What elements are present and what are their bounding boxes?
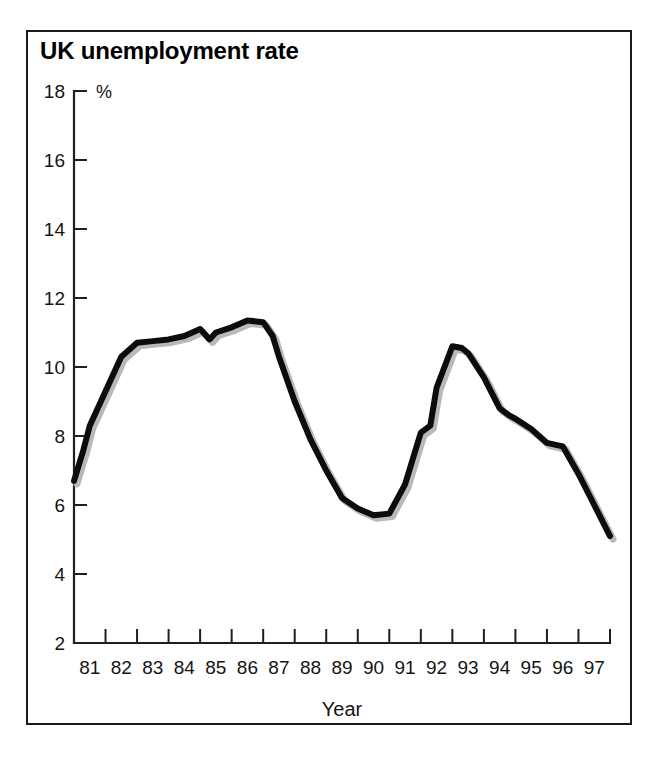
x-axis-tick-label: 92 bbox=[426, 657, 447, 678]
x-axis-tick-label: 85 bbox=[205, 657, 226, 678]
y-axis-tick-label: 14 bbox=[44, 219, 66, 240]
x-axis-tick-marks bbox=[74, 629, 610, 643]
x-axis-tick-label: 97 bbox=[584, 657, 605, 678]
x-axis-tick-label: 91 bbox=[394, 657, 415, 678]
y-axis-tick-label: 6 bbox=[54, 495, 65, 516]
x-axis-tick-label: 95 bbox=[521, 657, 542, 678]
y-axis-tick-label: 10 bbox=[44, 357, 65, 378]
x-axis-tick-label: 90 bbox=[363, 657, 384, 678]
y-axis-tick-label: 16 bbox=[44, 150, 65, 171]
x-axis-tick-label: 86 bbox=[237, 657, 258, 678]
y-axis-tick-label: 8 bbox=[54, 426, 65, 447]
x-axis-tick-label: 87 bbox=[268, 657, 289, 678]
y-axis-unit-label: % bbox=[96, 82, 112, 102]
chart-figure: UK unemployment rate 24681012141618 8182… bbox=[26, 30, 632, 725]
x-axis-tick-label: 84 bbox=[174, 657, 196, 678]
y-axis-tick-label: 12 bbox=[44, 288, 65, 309]
x-axis-tick-label: 93 bbox=[458, 657, 479, 678]
x-axis-tick-label: 88 bbox=[300, 657, 321, 678]
x-axis-tick-label: 89 bbox=[331, 657, 352, 678]
x-axis-tick-label: 82 bbox=[111, 657, 132, 678]
x-axis-tick-label: 94 bbox=[489, 657, 511, 678]
x-axis-title: Year bbox=[322, 698, 363, 720]
series-line-uk-unemployment-rate bbox=[74, 320, 610, 536]
chart-plot-area: 24681012141618 8182838485868788899091929… bbox=[28, 32, 634, 727]
y-axis-tick-label: 4 bbox=[54, 564, 65, 585]
x-axis-tick-labels: 8182838485868788899091929394959697 bbox=[79, 657, 605, 678]
y-axis-tick-label: 2 bbox=[54, 633, 65, 654]
x-axis-tick-label: 96 bbox=[552, 657, 573, 678]
x-axis-tick-label: 83 bbox=[142, 657, 163, 678]
y-axis-tick-labels: 24681012141618 bbox=[44, 81, 66, 654]
y-axis-tick-marks bbox=[74, 91, 87, 643]
y-axis-tick-label: 18 bbox=[44, 81, 65, 102]
x-axis-tick-label: 81 bbox=[79, 657, 100, 678]
